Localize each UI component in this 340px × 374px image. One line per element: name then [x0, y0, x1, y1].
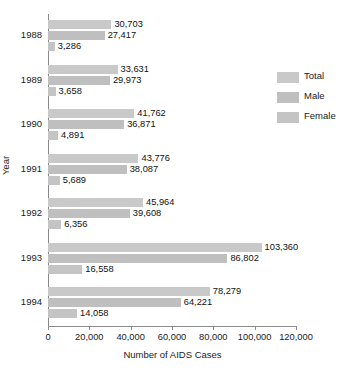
x-tick-label: 100,000 — [238, 332, 272, 342]
bar-value-label: 38,087 — [127, 164, 158, 174]
x-tick — [255, 326, 256, 330]
bar-total-1989 — [48, 65, 118, 74]
bar-group-1991: 199143,77638,0875,689 — [0, 148, 340, 192]
bar-row-female: 3,658 — [48, 87, 296, 96]
bar-total-1994 — [48, 287, 210, 296]
bar-row-total: 78,279 — [48, 287, 296, 296]
bar-value-label: 78,279 — [210, 286, 241, 296]
bar-row-female: 4,891 — [48, 131, 296, 140]
x-tick — [296, 326, 297, 330]
x-tick-label: 120,000 — [279, 332, 313, 342]
legend-label: Female — [304, 110, 336, 121]
bar-row-male: 39,608 — [48, 209, 296, 218]
bar-total-1991 — [48, 154, 138, 163]
bar-group-1990: 199041,76236,8714,891 — [0, 103, 340, 147]
bar-total-1993 — [48, 243, 262, 252]
x-tick — [48, 326, 49, 330]
bar-value-label: 103,360 — [262, 242, 299, 252]
bar-value-label: 14,058 — [77, 308, 108, 318]
bar-total-1990 — [48, 109, 134, 118]
bar-row-male: 38,087 — [48, 165, 296, 174]
x-tick — [89, 326, 90, 330]
bar-row-male: 29,973 — [48, 76, 296, 85]
bar-row-total: 33,631 — [48, 65, 296, 74]
bar-group-1993: 1993103,36086,80216,558 — [0, 237, 340, 281]
bar-row-total: 45,964 — [48, 198, 296, 207]
bar-group-1994: 199478,27964,22114,058 — [0, 281, 340, 325]
x-tick — [213, 326, 214, 330]
bar-male-1990 — [48, 120, 124, 129]
bar-row-male: 86,802 — [48, 254, 296, 263]
bar-female-1991 — [48, 176, 60, 185]
chart-title — [18, 0, 322, 2]
x-tick-label: 80,000 — [199, 332, 227, 342]
bar-row-total: 103,360 — [48, 243, 296, 252]
year-label: 1988 — [0, 29, 42, 40]
bar-group-1992: 199245,96439,6086,356 — [0, 192, 340, 236]
bar-female-1992 — [48, 220, 61, 229]
bar-male-1992 — [48, 209, 130, 218]
bar-value-label: 64,221 — [181, 297, 212, 307]
bar-male-1991 — [48, 165, 127, 174]
legend-swatch-total — [277, 72, 299, 83]
bar-row-total: 30,703 — [48, 20, 296, 29]
x-axis-label: Number of AIDS Cases — [48, 349, 297, 360]
bar-total-1988 — [48, 20, 111, 29]
bar-value-label: 33,631 — [118, 64, 149, 74]
aids-cases-bar-chart: Year 198830,70327,4173,286198933,63129,9… — [0, 0, 340, 374]
year-label: 1989 — [0, 74, 42, 85]
legend-swatch-male — [277, 92, 299, 103]
bar-value-label: 39,608 — [130, 208, 161, 218]
x-tick-label: 40,000 — [116, 332, 144, 342]
bar-total-1992 — [48, 198, 143, 207]
bar-row-total: 43,776 — [48, 154, 296, 163]
bar-value-label: 16,558 — [82, 264, 113, 274]
bar-row-male: 27,417 — [48, 31, 296, 40]
bar-row-total: 41,762 — [48, 109, 296, 118]
bar-value-label: 41,762 — [134, 108, 165, 118]
bar-male-1989 — [48, 76, 110, 85]
bar-value-label: 43,776 — [138, 153, 169, 163]
x-tick-label: 60,000 — [158, 332, 186, 342]
x-tick — [172, 326, 173, 330]
legend-label: Total — [304, 70, 324, 81]
bar-value-label: 5,689 — [60, 175, 86, 185]
bar-value-label: 3,286 — [55, 41, 81, 51]
bar-female-1993 — [48, 265, 82, 274]
bar-value-label: 6,356 — [61, 219, 87, 229]
bar-female-1994 — [48, 309, 77, 318]
bar-row-female: 6,356 — [48, 220, 296, 229]
year-label: 1992 — [0, 207, 42, 218]
year-label: 1994 — [0, 296, 42, 307]
bar-female-1989 — [48, 87, 56, 96]
bar-male-1994 — [48, 298, 181, 307]
bar-value-label: 3,658 — [56, 86, 82, 96]
x-tick-label: 0 — [45, 332, 50, 342]
year-label: 1990 — [0, 118, 42, 129]
bar-value-label: 29,973 — [110, 75, 141, 85]
bar-male-1993 — [48, 254, 227, 263]
bar-female-1990 — [48, 131, 58, 140]
legend-label: Male — [304, 90, 325, 101]
year-label: 1991 — [0, 163, 42, 174]
bar-female-1988 — [48, 42, 55, 51]
bar-value-label: 45,964 — [143, 197, 174, 207]
legend-swatch-female — [277, 112, 299, 123]
bar-group-1988: 198830,70327,4173,286 — [0, 14, 340, 58]
bar-value-label: 4,891 — [58, 130, 84, 140]
year-label: 1993 — [0, 252, 42, 263]
bar-row-female: 3,286 — [48, 42, 296, 51]
bar-row-male: 64,221 — [48, 298, 296, 307]
x-tick — [131, 326, 132, 330]
bar-value-label: 36,871 — [124, 119, 155, 129]
bar-row-female: 16,558 — [48, 265, 296, 274]
bar-row-male: 36,871 — [48, 120, 296, 129]
bar-row-female: 5,689 — [48, 176, 296, 185]
bar-male-1988 — [48, 31, 105, 40]
bar-row-female: 14,058 — [48, 309, 296, 318]
bar-value-label: 86,802 — [227, 253, 258, 263]
bar-value-label: 30,703 — [111, 19, 142, 29]
bar-value-label: 27,417 — [105, 30, 136, 40]
x-tick-label: 20,000 — [75, 332, 103, 342]
